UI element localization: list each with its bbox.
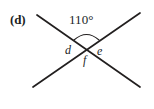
- angle-label-e: e: [97, 45, 102, 57]
- angle-label-d: d: [65, 44, 71, 56]
- angle-label-f: f: [83, 54, 86, 66]
- angle-measure-label: 110°: [69, 13, 94, 26]
- geometry-figure: (d) 110° d e f: [0, 0, 154, 109]
- part-label: (d): [10, 13, 25, 26]
- angle-arc: [74, 35, 99, 41]
